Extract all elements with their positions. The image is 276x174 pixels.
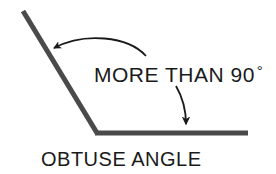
angle-arc-arrow	[54, 38, 146, 56]
callout-text: MORE THAN 90	[94, 63, 255, 86]
diagram-canvas: MORE THAN 90° OBTUSE ANGLE	[0, 0, 276, 174]
caption-obtuse-angle: OBTUSE ANGLE	[41, 147, 202, 171]
callout-label-more-than-90: MORE THAN 90°	[94, 59, 263, 87]
angle-left-ray	[23, 11, 97, 133]
baseline-pointer-arrow	[176, 86, 186, 124]
degree-symbol-icon: °	[257, 62, 264, 79]
